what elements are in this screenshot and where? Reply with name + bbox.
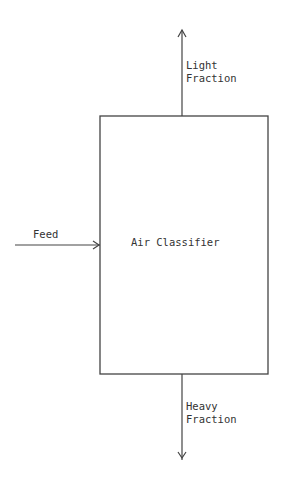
process-label: Air Classifier bbox=[131, 236, 220, 249]
heavy-fraction-label: Heavy Fraction bbox=[186, 400, 237, 426]
feed-label: Feed bbox=[33, 228, 58, 241]
light-fraction-label: Light Fraction bbox=[186, 59, 237, 85]
